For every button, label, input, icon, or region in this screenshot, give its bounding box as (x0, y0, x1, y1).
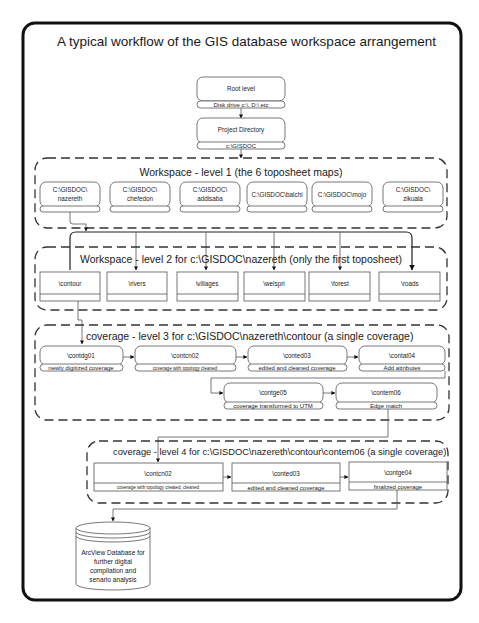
arcview-database-cylinder: ArcView Database for further digital com… (76, 522, 150, 590)
node-text: \contge05 (259, 389, 287, 397)
database-line-1: ArcView Database for (81, 549, 145, 556)
node-text: \villages (196, 280, 219, 288)
node-text: C:\GISDOC\ (396, 186, 431, 193)
level4-node-conted03[interactable]: \conted03 edited and cleaned coverage (232, 463, 340, 491)
node-text: \roads (401, 280, 419, 287)
outer-frame (23, 23, 461, 600)
level3-node-contem06[interactable]: \contem06 Edge match (336, 383, 437, 409)
level2-node-roads[interactable]: \roads (379, 272, 440, 301)
project-directory-label: Project Directory (218, 126, 265, 134)
node-text: \forest (331, 280, 349, 287)
node-text: \conted03 (272, 470, 300, 477)
project-directory-sublabel: c:\GISDOC (226, 143, 257, 149)
level1-node-balchi[interactable]: C:\GISDOC\balchi (247, 182, 307, 212)
node-desc: edited and cleaned coverage (247, 485, 325, 491)
database-line-4: senario analysis (89, 576, 137, 584)
level4-node-contge04[interactable]: \contge04 finalized coverage (349, 462, 447, 490)
level1-node-chefedon[interactable]: C:\GISDOC\ chefedon (110, 182, 170, 212)
level3-node-contat04[interactable]: \contat04 Add attributes (359, 346, 445, 371)
node-text: \rivers (128, 280, 145, 287)
node-text: \contcn02 (171, 352, 199, 359)
database-line-2: further digital (94, 558, 133, 566)
level2-node-contour[interactable]: \contour (40, 272, 100, 301)
level1-node-nazereth[interactable]: C:\GISDOC\ nazereth (40, 182, 100, 212)
workspace-level2-container: Workspace - level 2 for c:\GISDOC\nazere… (35, 247, 447, 310)
workflow-diagram: A typical workflow of the GIS database w… (0, 0, 479, 623)
level2-node-villages[interactable]: \villages (177, 272, 238, 301)
level1-title: Workspace - level 1 (the 6 toposheet map… (140, 166, 343, 178)
coverage-level3-container: coverage - level 3 for c:\GISDOC\nazeret… (35, 325, 449, 420)
level4-title: coverage - level 4 for c:\GISDOC\nazeret… (113, 447, 446, 457)
node-desc: Edge match (370, 403, 402, 409)
level2-title: Workspace - level 2 for c:\GISDOC\nazere… (80, 253, 402, 265)
level1-node-mojo[interactable]: C:\GISDOC\mojo (312, 182, 372, 212)
node-text: C:\GISDOC\ (123, 186, 158, 193)
node-text: C:\GISDOC\mojo (318, 191, 367, 199)
node-text: \contge04 (384, 469, 412, 477)
node-text: \contcn02 (144, 470, 172, 477)
root-level-label: Root level (227, 85, 255, 92)
level4-node-contcn02[interactable]: \contcn02 coverage with topology created… (94, 463, 223, 491)
node-text: \contour (59, 280, 82, 287)
level1-node-zikuala[interactable]: C:\GISDOC\ zikuala (383, 182, 443, 212)
node-text: zikuala (403, 195, 423, 202)
database-line-3: compilation and (90, 567, 137, 575)
level1-node-addisaba[interactable]: C:\GISDOC\ addisaba (180, 182, 240, 212)
node-text: C:\GISDOC\balchi (251, 191, 302, 198)
connector-contour-to-level3 (78, 301, 82, 344)
root-level-sublabel: Disk drive c:\, D:\ etc (213, 102, 268, 108)
coverage-level4-container: coverage - level 4 for c:\GISDOC\nazeret… (87, 441, 448, 503)
node-desc: edited and cleaned coverage (258, 365, 336, 371)
node-desc: coverage transformed to UTM (233, 403, 313, 409)
node-text: \welspri (263, 280, 284, 288)
node-text: chefedon (127, 195, 153, 202)
node-desc: coverage with topology cleaned (153, 366, 218, 371)
node-desc: coverage with topology created, cleaned (117, 485, 200, 490)
node-text: C:\GISDOC\ (193, 186, 228, 193)
node-desc: Add attributes (383, 365, 420, 371)
diagram-title: A typical workflow of the GIS database w… (57, 34, 436, 49)
node-text: \contat04 (389, 352, 415, 359)
level3-title: coverage - level 3 for c:\GISDOC\nazeret… (86, 330, 413, 342)
workspace-level1-container: Workspace - level 1 (the 6 toposheet map… (35, 158, 447, 228)
level2-node-rivers[interactable]: \rivers (107, 272, 167, 301)
node-text: nazereth (58, 195, 83, 202)
project-directory-node: Project Directory c:\GISDOC (197, 118, 285, 149)
node-text: addisaba (197, 195, 223, 202)
node-desc: finalized coverage (374, 484, 423, 490)
node-text: C:\GISDOC\ (53, 186, 88, 193)
level3-node-contcn02[interactable]: \contcn02 coverage with topology cleaned (135, 346, 236, 371)
root-level-node: Root level Disk drive c:\, D:\ etc (197, 77, 285, 108)
node-desc: newly digitized coverage (48, 365, 114, 371)
level3-node-contdg01[interactable]: \contdg01 newly digitized coverage (40, 346, 123, 371)
level2-node-welspri[interactable]: \welspri (244, 272, 305, 301)
node-text: \contdg01 (67, 352, 95, 360)
node-text: \contem06 (371, 389, 401, 396)
node-text: \conted03 (283, 352, 311, 359)
level3-node-conted03[interactable]: \conted03 edited and cleaned coverage (248, 346, 347, 371)
level2-node-forest[interactable]: \forest (309, 272, 370, 301)
connector-contge04-to-database (113, 490, 397, 521)
level3-node-contge05[interactable]: \contge05 coverage transformed to UTM (224, 383, 323, 409)
